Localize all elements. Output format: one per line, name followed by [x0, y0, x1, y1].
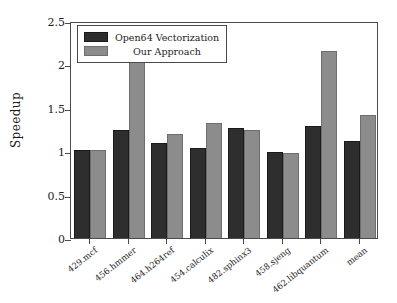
bar: [190, 148, 206, 238]
x-axis-tick-label: 429.mcf: [66, 245, 100, 274]
bar: [90, 150, 106, 238]
x-axis-tick-label: mean: [344, 245, 369, 267]
speedup-bar-chart: Speedup 00.511.522.5 429.mcf456.hmmer464…: [0, 0, 397, 303]
legend-label-our-approach: Our Approach: [115, 46, 219, 57]
bar: [167, 134, 183, 238]
y-axis-tick-label: 1.5: [25, 102, 65, 115]
x-axis-tick: [320, 239, 321, 244]
bar: [151, 143, 167, 238]
x-axis-tick: [205, 239, 206, 244]
legend-item-open64: Open64 Vectorization: [84, 30, 219, 44]
y-axis-tick-label: 0.5: [25, 189, 65, 202]
bar-group: [264, 23, 303, 238]
bar-group: [341, 23, 380, 238]
y-axis-label: Speedup: [9, 92, 23, 148]
y-axis-tick-label: 2: [25, 59, 65, 72]
bar-group: [225, 23, 264, 238]
bar: [305, 126, 321, 238]
x-axis-tick: [359, 239, 360, 244]
bar: [321, 51, 337, 238]
bar: [74, 150, 90, 238]
x-axis-tick: [243, 239, 244, 244]
x-axis-tick: [128, 239, 129, 244]
bar: [244, 130, 260, 238]
chart-legend: Open64 Vectorization Our Approach: [77, 25, 227, 63]
y-axis-tick: [65, 110, 71, 111]
bar: [228, 128, 244, 238]
y-axis-tick-label: 0: [25, 233, 65, 246]
bar: [206, 123, 222, 238]
legend-swatch-open64-icon: [84, 32, 108, 42]
y-axis-tick: [65, 153, 71, 154]
y-axis-label-container: Speedup: [6, 0, 26, 239]
y-axis-tick: [65, 66, 71, 67]
bar: [267, 152, 283, 238]
bar: [344, 141, 360, 238]
legend-item-our-approach: Our Approach: [84, 44, 219, 58]
bar: [283, 153, 299, 238]
y-axis-tick-label: 2.5: [25, 16, 65, 29]
bar: [113, 130, 129, 239]
bar: [129, 61, 145, 238]
x-axis-tick: [282, 239, 283, 244]
legend-label-open64: Open64 Vectorization: [115, 32, 219, 43]
x-axis-tick: [89, 239, 90, 244]
x-axis-tick: [166, 239, 167, 244]
y-axis-tick: [65, 240, 71, 241]
bar: [360, 115, 376, 238]
legend-swatch-our-approach-icon: [84, 46, 108, 56]
y-axis-tick-label: 1: [25, 146, 65, 159]
y-axis-tick: [65, 197, 71, 198]
bar-group: [302, 23, 341, 238]
y-axis-tick: [65, 23, 71, 24]
